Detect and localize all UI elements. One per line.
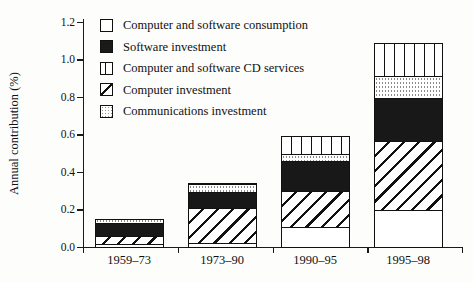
y-tick-label: 0.8 [45, 91, 75, 103]
bar-segment [282, 228, 349, 247]
x-axis-tick [462, 248, 463, 253]
x-axis-tick [367, 248, 368, 253]
bar-segment [375, 99, 442, 142]
legend-item: Computer and software consumption [100, 18, 308, 32]
bar-segment [282, 162, 349, 192]
bar-segment [375, 77, 442, 99]
bar-segment [96, 245, 163, 247]
y-axis-tick [77, 172, 83, 173]
bar-segment [96, 224, 163, 237]
y-tick-label: 0.2 [45, 203, 75, 215]
bar-1973–90 [188, 183, 257, 248]
bar-segment [375, 43, 442, 77]
bar-1995–98 [374, 43, 443, 248]
consumption-swatch-icon [100, 19, 113, 32]
legend-item-label: Computer investment [123, 83, 231, 97]
y-axis-tick [77, 134, 83, 135]
y-axis-tick [77, 59, 83, 60]
y-axis-tick [77, 209, 83, 210]
bar-segment [282, 192, 349, 229]
software-investment-swatch-icon [100, 40, 113, 53]
legend-item-label: Communications investment [123, 104, 266, 118]
bar-1959–73 [95, 219, 164, 248]
y-tick-label: 1.2 [45, 16, 75, 28]
stacked-bar-chart: Annual contribution (%) 0.0 0.2 0.4 0.6 … [0, 0, 473, 282]
x-tick-label: 1990–95 [280, 253, 350, 268]
bar-segment [189, 244, 256, 247]
y-axis-tick [77, 22, 83, 23]
x-tick-label: 1995–98 [373, 253, 443, 268]
bar-segment [189, 193, 256, 210]
bar-segment [96, 237, 163, 245]
bar-segment [189, 185, 256, 193]
x-tick-label: 1973–90 [187, 253, 257, 268]
x-tick-label: 1959–73 [94, 253, 164, 268]
legend-item-label: Computer and software CD services [123, 61, 304, 75]
bar-segment [375, 211, 442, 247]
communications-swatch-icon [100, 105, 113, 118]
legend-item-label: Software investment [123, 40, 226, 54]
y-tick-label: 0.4 [45, 166, 75, 178]
legend-item: Computer and software CD services [100, 61, 304, 75]
cd-services-swatch-icon [100, 62, 113, 75]
bar-1990–95 [281, 136, 350, 248]
legend-item: Communications investment [100, 104, 266, 118]
x-axis-tick [273, 248, 274, 253]
y-axis-line [83, 19, 84, 248]
x-axis-tick [178, 248, 179, 253]
legend-item: Computer investment [100, 83, 231, 97]
legend-item-label: Computer and software consumption [123, 18, 308, 32]
y-tick-label: 1.0 [45, 53, 75, 65]
bar-segment [189, 209, 256, 244]
y-axis-title: Annual contribution (%) [7, 34, 22, 234]
x-axis-tick [83, 248, 84, 253]
bar-segment [282, 136, 349, 155]
legend-item: Software investment [100, 40, 226, 54]
y-tick-label: 0.6 [45, 128, 75, 140]
y-axis-tick [77, 97, 83, 98]
y-tick-label: 0.0 [45, 241, 75, 253]
bar-segment [375, 142, 442, 211]
computer-investment-swatch-icon [100, 83, 113, 96]
